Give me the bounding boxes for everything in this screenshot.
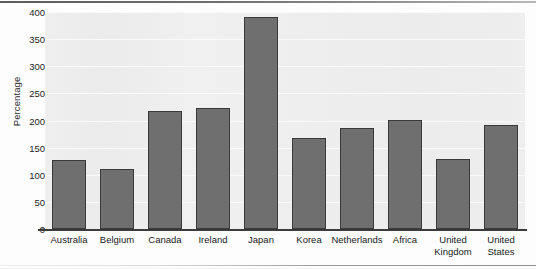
y-axis-title: Percentage — [11, 62, 22, 142]
x-axis-baseline — [38, 229, 527, 231]
gridline — [45, 66, 525, 67]
y-axis-tick-label: 250 — [5, 88, 45, 99]
bar — [484, 125, 518, 229]
y-axis-tick-label: 50 — [5, 196, 45, 207]
y-axis-tick-label: 350 — [5, 34, 45, 45]
bar — [244, 17, 278, 229]
x-axis-category-label: UnitedStates — [473, 234, 529, 257]
bar — [388, 120, 422, 229]
chart-screenshot: Percentage 050100150200250300350400 Aust… — [0, 0, 536, 269]
gridline — [45, 93, 525, 94]
y-axis-tick-label: 300 — [5, 61, 45, 72]
y-axis-tick-label: 400 — [5, 7, 45, 18]
plot-area — [45, 12, 525, 229]
gridline — [45, 148, 525, 149]
bar — [340, 128, 374, 229]
gridline — [45, 12, 525, 13]
y-axis-tick-label: 150 — [5, 142, 45, 153]
gridline — [45, 39, 525, 40]
y-axis-tick-label: 100 — [5, 169, 45, 180]
y-axis-tick-label: 200 — [5, 115, 45, 126]
bar — [148, 111, 182, 229]
bar — [196, 108, 230, 229]
gridline — [45, 121, 525, 122]
scan-artifact-top-line — [0, 1, 536, 3]
bar — [292, 138, 326, 229]
bar — [100, 169, 134, 229]
scan-artifact-bottom-line — [0, 265, 536, 266]
bar — [436, 159, 470, 229]
bar — [52, 160, 86, 229]
x-axis-category-label-line: United — [473, 234, 529, 246]
x-axis-category-label-line: States — [473, 246, 529, 258]
